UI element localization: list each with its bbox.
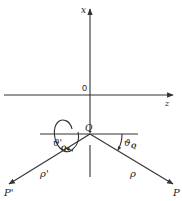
geometry-diagram: x z 0 Q P P' ρ ρ' ϑ Q ϑ' Q: [0, 0, 182, 201]
svg-text:Q: Q: [131, 142, 137, 150]
angle-arc-theta-q: [118, 134, 122, 150]
z-axis-label: z: [164, 99, 170, 108]
x-axis-label: x: [81, 5, 86, 15]
theta-q-prime-label: ϑ' Q: [53, 138, 67, 152]
svg-text:ϑ: ϑ: [124, 138, 131, 148]
theta-q-label: ϑ Q: [124, 138, 137, 150]
svg-text:Q: Q: [61, 144, 67, 152]
origin-label: 0: [82, 83, 87, 93]
point-p-label: P: [172, 187, 180, 198]
rho-label: ρ: [129, 168, 136, 179]
rho-prime-label: ρ': [39, 168, 49, 179]
point-p-prime-label: P': [3, 187, 13, 198]
point-q-label: Q: [85, 123, 93, 133]
